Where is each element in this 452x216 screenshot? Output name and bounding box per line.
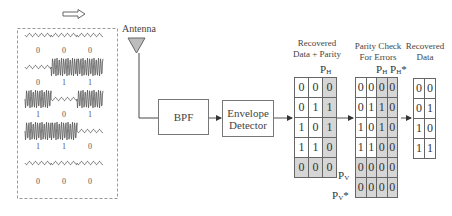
grid-cell: 0 bbox=[356, 178, 367, 198]
envelope-detector-label-line2: Detector bbox=[229, 119, 267, 131]
grid-cell: 0 bbox=[387, 158, 398, 178]
grid-cell: 0 bbox=[356, 158, 367, 178]
bit-label: 1 bbox=[33, 142, 43, 151]
grid-cell: 0 bbox=[377, 138, 388, 158]
ph-sub: H bbox=[382, 68, 387, 76]
grid-row: 000 bbox=[295, 78, 337, 98]
bit-label: 1 bbox=[33, 110, 43, 119]
antenna-label: Antenna bbox=[122, 23, 156, 34]
bit-label: 1 bbox=[59, 142, 69, 151]
grid-cell: 0 bbox=[377, 78, 388, 98]
grid-row: 10 bbox=[414, 119, 436, 139]
grid-cell: 1 bbox=[366, 138, 377, 158]
bit-label: 0 bbox=[59, 177, 69, 186]
grid-row: 1100 bbox=[356, 138, 398, 158]
grid-row: 110 bbox=[295, 138, 337, 158]
bit-label: 0 bbox=[85, 142, 95, 151]
grid-cell: 0 bbox=[295, 158, 309, 178]
grid-cell: 0 bbox=[377, 158, 388, 178]
bit-label: 1 bbox=[85, 110, 95, 119]
ph-sub: H bbox=[326, 68, 331, 76]
ph-star: * bbox=[401, 63, 407, 75]
grid-cell: 1 bbox=[295, 138, 309, 158]
grid2-pv-star-label: PV* bbox=[332, 189, 349, 201]
grid-cell: 1 bbox=[295, 118, 309, 138]
grid-cell: 1 bbox=[356, 138, 367, 158]
grid-cell: 0 bbox=[414, 99, 425, 119]
grid-cell: 0 bbox=[323, 158, 337, 178]
parity-check-grid: 000001101010110000000000 bbox=[355, 77, 398, 198]
bit-label: 1 bbox=[85, 78, 95, 87]
grid3-title-line1: Recovered bbox=[403, 41, 447, 52]
grid2-title-line1: Parity Check bbox=[348, 41, 408, 52]
bit-label: 0 bbox=[59, 110, 69, 119]
grid-cell: 0 bbox=[387, 98, 398, 118]
recovered-data-grid: 00011011 bbox=[413, 78, 436, 159]
grid-cell: 0 bbox=[366, 178, 377, 198]
grid1-ph-label: PH bbox=[320, 63, 331, 75]
grid-cell: 1 bbox=[377, 98, 388, 118]
grid-cell: 1 bbox=[414, 119, 425, 139]
envelope-detector-label-line1: Envelope bbox=[227, 107, 269, 119]
bit-label: 0 bbox=[59, 46, 69, 55]
grid-cell: 0 bbox=[425, 79, 436, 99]
grid-cell: 0 bbox=[387, 78, 398, 98]
grid2-ph-label: PH bbox=[376, 63, 387, 75]
grid-cell: 1 bbox=[323, 118, 337, 138]
bit-label: 0 bbox=[33, 46, 43, 55]
grid-cell: 0 bbox=[309, 118, 323, 138]
grid-cell: 0 bbox=[387, 118, 398, 138]
bit-label: 0 bbox=[33, 177, 43, 186]
waveform-row bbox=[25, 161, 103, 164]
grid-cell: 1 bbox=[309, 98, 323, 118]
grid-row: 0110 bbox=[356, 98, 398, 118]
grid-cell: 0 bbox=[309, 158, 323, 178]
grid1-title-line2: Data + Parity bbox=[289, 49, 345, 60]
grid2-ph-star-label: PH* bbox=[390, 63, 407, 75]
grid-cell: 0 bbox=[366, 158, 377, 178]
pv-star: * bbox=[343, 189, 349, 201]
grid-cell: 0 bbox=[356, 98, 367, 118]
grid1-title-line1: Recovered bbox=[289, 38, 345, 49]
bit-label: 1 bbox=[59, 78, 69, 87]
grid-row: 0000 bbox=[356, 178, 398, 198]
envelope-detector-block: Envelope Detector bbox=[222, 100, 274, 137]
grid-cell: 1 bbox=[309, 138, 323, 158]
grid2-pv-label: PV bbox=[338, 169, 349, 181]
waveform-row bbox=[25, 122, 103, 140]
grid3-title: Recovered Data bbox=[403, 41, 447, 63]
waveform-row bbox=[25, 33, 103, 36]
grid-cell: 1 bbox=[414, 139, 425, 159]
grid-cell: 0 bbox=[425, 119, 436, 139]
ph-star-sub: H bbox=[396, 68, 401, 76]
grid-cell: 0 bbox=[295, 78, 309, 98]
grid-cell: 0 bbox=[387, 138, 398, 158]
waveform-row bbox=[25, 58, 103, 76]
waveform-row bbox=[25, 90, 103, 108]
grid-row: 0000 bbox=[356, 78, 398, 98]
pv-star-sub: V bbox=[338, 194, 343, 202]
grid-cell: 0 bbox=[366, 78, 377, 98]
grid-row: 00 bbox=[414, 79, 436, 99]
bpf-label: BPF bbox=[174, 111, 194, 123]
grid-row: 11 bbox=[414, 139, 436, 159]
grid-cell: 0 bbox=[323, 138, 337, 158]
grid-cell: 1 bbox=[356, 118, 367, 138]
grid2-title-line2: For Errors bbox=[348, 52, 408, 63]
grid-row: 101 bbox=[295, 118, 337, 138]
pv-sub: V bbox=[344, 174, 349, 182]
grid-cell: 1 bbox=[366, 98, 377, 118]
antenna-icon bbox=[128, 38, 158, 118]
grid-cell: 0 bbox=[309, 78, 323, 98]
grid-cell: 0 bbox=[366, 118, 377, 138]
direction-arrow-icon bbox=[63, 10, 85, 19]
grid-cell: 1 bbox=[377, 118, 388, 138]
grid-row: 000 bbox=[295, 158, 337, 178]
grid3-title-line2: Data bbox=[403, 52, 447, 63]
grid1-title: Recovered Data + Parity bbox=[289, 38, 345, 60]
grid-row: 0000 bbox=[356, 158, 398, 178]
grid-cell: 0 bbox=[323, 78, 337, 98]
grid-row: 01 bbox=[414, 99, 436, 119]
bit-label: 0 bbox=[33, 78, 43, 87]
grid-cell: 0 bbox=[377, 178, 388, 198]
